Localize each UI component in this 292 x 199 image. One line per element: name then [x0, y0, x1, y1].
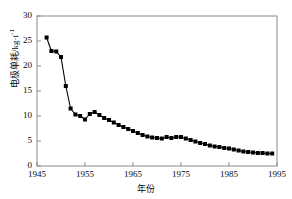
- data-point: [97, 113, 101, 117]
- data-point: [131, 129, 135, 133]
- data-point: [184, 137, 188, 141]
- y-axis-title-exponent: -1: [8, 29, 16, 35]
- x-tick-label: 1955: [65, 169, 105, 179]
- data-point: [121, 125, 125, 129]
- data-point: [102, 116, 106, 120]
- data-point: [93, 110, 97, 114]
- data-point: [232, 148, 236, 152]
- data-point: [270, 152, 274, 156]
- data-point: [69, 107, 73, 111]
- data-point: [112, 121, 116, 125]
- data-point: [246, 150, 250, 154]
- data-point: [208, 144, 212, 148]
- data-point: [150, 136, 154, 140]
- data-point: [155, 136, 159, 140]
- data-point: [189, 138, 193, 142]
- data-point: [141, 133, 145, 137]
- x-axis-title: 年份: [0, 182, 292, 195]
- data-point: [59, 55, 63, 59]
- y-tick-label: 10: [8, 110, 32, 120]
- data-point: [45, 36, 49, 40]
- x-tick-label: 1965: [113, 169, 153, 179]
- x-tick-label: 1995: [257, 169, 292, 179]
- x-tick-label: 1985: [209, 169, 249, 179]
- data-point: [198, 141, 202, 145]
- data-point: [227, 147, 231, 151]
- data-point: [136, 131, 140, 135]
- data-point: [126, 127, 130, 131]
- data-point: [145, 135, 149, 139]
- data-point: [169, 136, 173, 140]
- data-point: [222, 146, 226, 150]
- data-point: [165, 135, 169, 139]
- data-point: [261, 151, 265, 155]
- data-point: [78, 114, 82, 118]
- data-point: [88, 112, 92, 116]
- data-point: [174, 135, 178, 139]
- x-tick-label: 1945: [17, 169, 57, 179]
- y-tick-label: 5: [8, 135, 32, 145]
- data-point: [179, 135, 183, 139]
- data-point: [73, 113, 77, 117]
- data-point: [83, 118, 87, 122]
- chart-figure: 051015202530 194519551965197519851995 电极…: [0, 0, 292, 199]
- data-point: [49, 49, 53, 53]
- x-tick-label: 1975: [161, 169, 201, 179]
- data-point: [117, 123, 121, 127]
- data-point: [160, 137, 164, 141]
- data-point: [241, 150, 245, 154]
- y-axis-title: 电极单耗/kg·t-1: [8, 11, 21, 107]
- data-point: [203, 142, 207, 146]
- data-point: [213, 145, 217, 149]
- data-point: [107, 118, 111, 122]
- data-point: [256, 151, 260, 155]
- data-point: [237, 149, 241, 153]
- data-point: [217, 145, 221, 149]
- data-point: [193, 140, 197, 144]
- data-point: [54, 50, 58, 54]
- data-point: [251, 151, 255, 155]
- y-axis-title-text: 电极单耗/kg·t: [10, 35, 20, 88]
- data-point: [64, 84, 68, 88]
- data-point: [265, 152, 269, 156]
